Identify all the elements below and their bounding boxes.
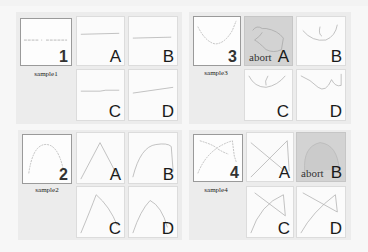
abort-label: abort [301,167,324,179]
option-label: D [162,220,174,237]
option-label: B [163,166,174,183]
option-label: A [279,164,290,181]
option-label: A [278,48,289,65]
top-fade [0,0,368,6]
sample-caption: sample2 [17,186,77,194]
option-c-panel[interactable]: C [76,186,125,238]
option-label: D [330,220,342,237]
option-c-panel[interactable]: C [76,69,125,121]
sample-2-panel[interactable]: 2 [22,134,72,184]
option-d-panel[interactable]: D [128,69,178,121]
sample-caption: sample1 [16,70,76,78]
option-c-panel[interactable]: C [244,69,293,121]
option-label: A [110,48,121,65]
sample-number: 2 [59,166,68,183]
sample-number: 3 [228,48,237,65]
option-b-panel[interactable]: abort B [296,132,346,182]
option-label: B [331,48,342,65]
option-label: A [110,166,121,183]
option-d-panel[interactable]: D [296,69,346,121]
option-label: B [163,48,174,65]
option-a-panel[interactable]: A [246,132,294,182]
option-label: C [278,220,290,237]
sample-caption: sample3 [186,69,246,77]
option-b-panel[interactable]: B [128,132,178,184]
option-d-panel[interactable]: D [296,186,346,238]
option-label: D [162,103,174,120]
sample-3-panel[interactable]: 3 [193,16,241,66]
sample-number: 1 [59,48,68,65]
sample-caption: sample4 [186,186,246,194]
option-a-panel[interactable]: A [76,132,125,184]
option-label: C [109,220,121,237]
option-label: C [277,103,289,120]
option-b-panel[interactable]: B [296,16,346,66]
option-label: C [109,103,121,120]
option-c-panel[interactable]: C [246,186,294,238]
option-b-panel[interactable]: B [128,16,178,66]
sample-1-panel[interactable]: 1 [20,18,72,66]
option-d-panel[interactable]: D [128,186,178,238]
option-a-panel[interactable]: A [76,16,125,66]
abort-label: abort [249,51,272,63]
sample-number: 4 [230,164,239,181]
option-label: B [331,164,342,181]
option-a-panel[interactable]: abort A [244,16,293,66]
sample-4-panel[interactable]: 4 [193,134,243,182]
option-label: D [330,103,342,120]
